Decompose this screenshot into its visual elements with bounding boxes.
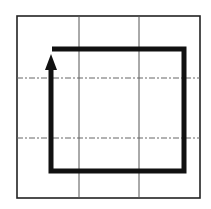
traced-path [51, 49, 184, 171]
grid-path-diagram [0, 0, 211, 209]
arrow-up-icon [45, 54, 57, 70]
